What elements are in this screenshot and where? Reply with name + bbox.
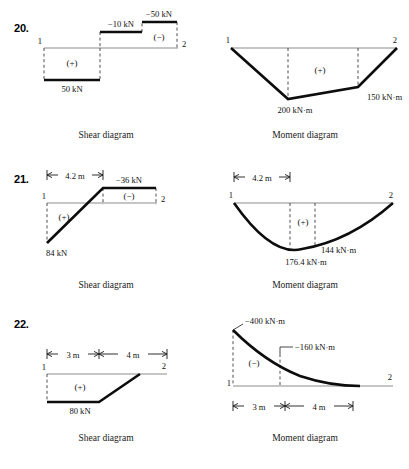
node-label-right: 2 (161, 194, 165, 204)
shear-value-label: −36 kN (116, 175, 143, 185)
sign-label-negative: (−) (153, 32, 164, 42)
node-label-left: 1 (226, 35, 230, 45)
shear-value-label: 50 kN (61, 84, 83, 94)
moment-value-label: −400 kN·m (245, 316, 285, 326)
moment-value-label: 176.4 kN·m (285, 257, 327, 267)
moment-diagram-caption: Moment diagram (215, 433, 395, 443)
moment-diagram-caption: Moment diagram (215, 130, 395, 140)
sign-label-negative: (−) (248, 358, 259, 368)
moment-diagram-figure-21: 4.2 m 1 2 (+) 144 kN·m 176.4 kN·m (210, 155, 409, 275)
shear-line (47, 374, 140, 402)
sign-label-positive: (+) (314, 65, 325, 75)
dimension-label: 4 m (312, 402, 325, 412)
sign-label-positive: (+) (74, 382, 85, 392)
sign-label-positive: (+) (58, 212, 69, 222)
node-label-left: 1 (227, 378, 231, 388)
problem-number: 22. (14, 318, 29, 330)
moment-diagram-caption: Moment diagram (215, 280, 395, 290)
dimension-label: 4 m (126, 350, 139, 360)
node-label-right: 2 (389, 190, 393, 200)
node-label-right: 2 (182, 39, 186, 49)
shear-diagram-caption: Shear diagram (16, 433, 196, 443)
moment-value-label: 144 kN·m (321, 245, 356, 255)
shear-diagram-caption: Shear diagram (16, 280, 196, 290)
shear-value-label: 84 kN (46, 248, 68, 258)
node-label-right: 2 (388, 372, 392, 382)
moment-diagram-figure-22: −400 kN·m −160 kN·m 1 2 (−) 3 m 4 m (210, 310, 409, 422)
shear-diagram-figure-20: 1 2 (+) (−) 50 kN −10 kN −50 kN (0, 0, 210, 110)
problem-20: 20. 1 2 (+) (−) (0, 0, 409, 155)
moment-diagram-figure-20: 1 2 (+) 200 kN·m 150 kN·m (210, 0, 409, 120)
problem-21: 21. 4.2 m 1 2 (0, 155, 409, 305)
node-label-right: 2 (393, 35, 397, 45)
problem-22: 22. 3 m 4 m 1 2 (+) (0, 305, 409, 469)
node-label-left: 1 (42, 362, 46, 372)
leader-line (233, 324, 243, 330)
dimension-label: 3 m (252, 402, 265, 412)
leader-line (280, 347, 293, 354)
textbook-page: 20. 1 2 (+) (−) (0, 0, 409, 469)
moment-value-label: 150 kN·m (367, 92, 402, 102)
moment-value-label: 200 kN·m (277, 105, 312, 115)
dimension-label: 4.2 m (65, 171, 85, 181)
dimension-label: 3 m (66, 350, 79, 360)
shear-value-label: −10 kN (108, 19, 135, 29)
node-label-left: 1 (42, 191, 46, 201)
node-label-right: 2 (162, 361, 166, 371)
shear-value-label: −50 kN (146, 9, 173, 19)
moment-value-label: −160 kN·m (295, 342, 335, 352)
node-label-left: 1 (229, 190, 233, 200)
node-label-left: 1 (38, 36, 42, 46)
sign-label-positive: (+) (66, 58, 77, 68)
moment-curve (234, 203, 393, 250)
shear-diagram-caption: Shear diagram (16, 130, 196, 140)
dimension-label: 4.2 m (252, 173, 272, 183)
sign-label-positive: (+) (297, 217, 308, 227)
sign-label-negative: (−) (123, 191, 134, 201)
shear-diagram-figure-21: 4.2 m 1 2 (+) (−) 84 kN −36 kN (0, 155, 210, 270)
shear-value-label: 80 kN (69, 406, 91, 416)
shear-diagram-figure-22: 3 m 4 m 1 2 (+) 80 kN (0, 333, 210, 428)
